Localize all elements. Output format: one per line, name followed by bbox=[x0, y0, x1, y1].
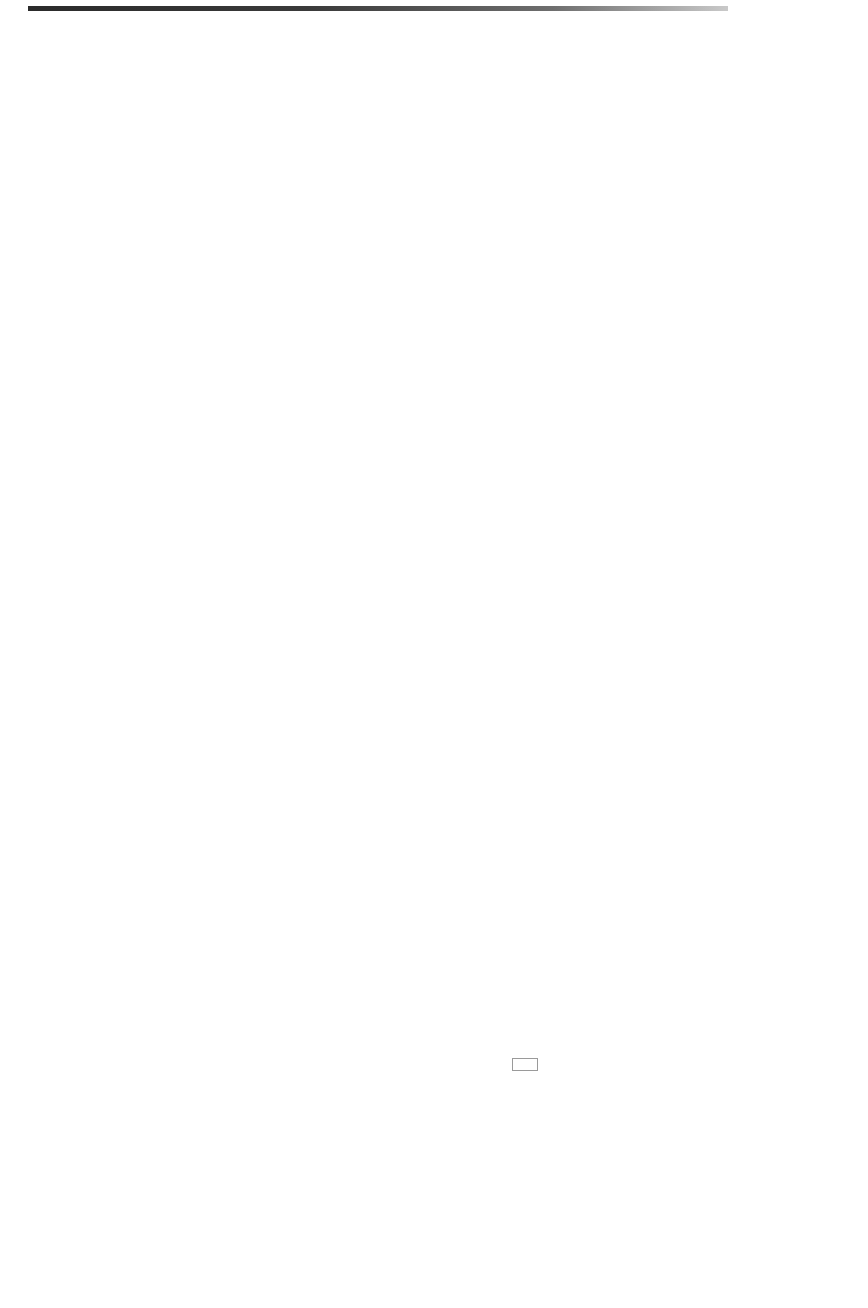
figure-panel-grid bbox=[0, 0, 868, 1308]
legend bbox=[512, 1058, 538, 1071]
